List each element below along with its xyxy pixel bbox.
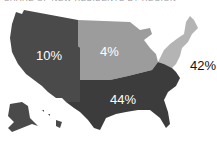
- region-hawaii: [42, 110, 62, 128]
- label-northeast: 42%: [190, 58, 216, 73]
- label-midwest: 4%: [100, 44, 119, 59]
- label-west: 10%: [36, 48, 62, 63]
- label-south: 44%: [110, 92, 136, 107]
- region-alaska: [8, 102, 38, 132]
- us-region-map: [0, 0, 217, 141]
